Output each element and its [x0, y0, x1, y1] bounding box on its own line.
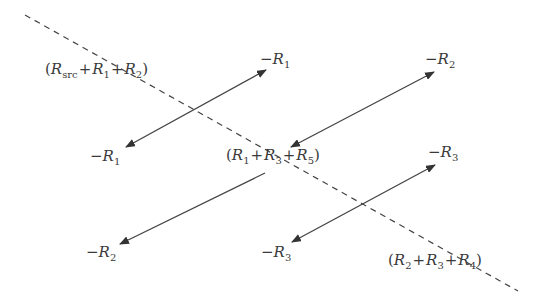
subscript: 1 — [284, 59, 290, 70]
variable-r: R — [274, 243, 285, 261]
plus-operator: + — [79, 60, 92, 78]
plus-operator: + — [111, 60, 124, 78]
subscript: 3 — [285, 252, 291, 263]
subscript: 3 — [437, 260, 443, 271]
plus-operator: + — [251, 146, 264, 164]
plus-operator: + — [445, 251, 458, 269]
arrow-a2 — [120, 173, 265, 244]
variable-r: R — [99, 243, 110, 261]
variable-r: R — [438, 50, 449, 68]
variable-r: R — [273, 50, 284, 68]
minus-sign: − — [86, 243, 99, 261]
minus-sign: − — [260, 50, 273, 68]
variable-r: R — [296, 146, 307, 164]
variable-r: R — [458, 251, 469, 269]
edge-label-e6: −R3 — [261, 245, 291, 260]
edge-label-e5: −R2 — [86, 245, 116, 260]
variable-r: R — [92, 60, 103, 78]
variable-r: R — [103, 147, 114, 165]
minus-sign: − — [425, 50, 438, 68]
subscript: 3 — [452, 152, 458, 163]
subscript: src — [62, 69, 78, 80]
edge-label-e4: −R3 — [428, 145, 458, 160]
subscript: 1 — [104, 69, 110, 80]
subscript: 2 — [449, 59, 455, 70]
arrow-a1 — [126, 70, 266, 147]
node-label-n1: (Rsrc+R1+R2) — [45, 62, 148, 77]
minus-sign: − — [261, 243, 274, 261]
variable-r: R — [51, 60, 62, 78]
minus-sign: − — [90, 147, 103, 165]
plus-operator: + — [283, 146, 296, 164]
subscript: 2 — [405, 260, 411, 271]
arrow-a3 — [291, 72, 434, 147]
edge-label-e3: −R2 — [425, 52, 455, 67]
variable-r: R — [232, 146, 243, 164]
edge-label-e1: −R1 — [260, 52, 290, 67]
node-label-n3: (R2+R3+R4) — [388, 253, 482, 268]
variable-r: R — [394, 251, 405, 269]
subscript: 2 — [110, 252, 116, 263]
subscript: 3 — [275, 155, 281, 166]
subscript: 1 — [114, 156, 120, 167]
variable-r: R — [426, 251, 437, 269]
variable-r: R — [441, 143, 452, 161]
edge-label-e2: −R1 — [90, 149, 120, 164]
subscript: 1 — [243, 155, 249, 166]
variable-r: R — [264, 146, 275, 164]
minus-sign: − — [428, 143, 441, 161]
node-label-n2: (R1+R3+R5) — [226, 148, 320, 163]
plus-operator: + — [413, 251, 426, 269]
variable-r: R — [125, 60, 136, 78]
